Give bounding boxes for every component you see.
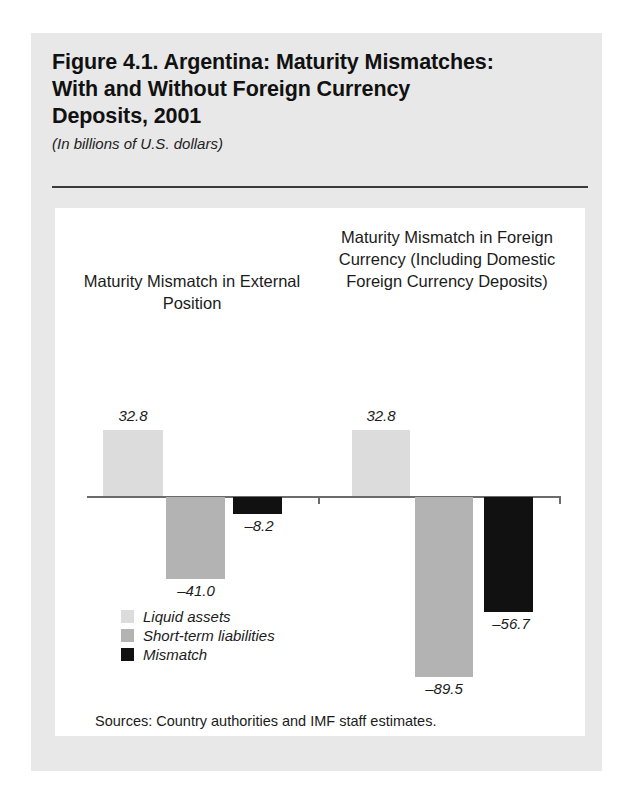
bar-left-short-term-liabilities <box>166 497 225 579</box>
legend-label-short-term-liabilities: Short-term liabilities <box>143 627 275 644</box>
bar-label-left-short-term-liabilities: –41.0 <box>161 582 231 599</box>
bar-label-right-short-term-liabilities: –89.5 <box>409 680 479 697</box>
axis-tick-end <box>559 496 561 504</box>
figure-title-line-3: Deposits, 2001 <box>52 103 588 130</box>
legend-label-liquid-assets: Liquid assets <box>143 608 231 625</box>
bar-label-left-liquid-assets: 32.8 <box>103 407 163 424</box>
figure-title-block: Figure 4.1. Argentina: Maturity Mismatch… <box>52 49 588 154</box>
bar-right-short-term-liabilities <box>415 497 473 677</box>
legend-swatch-short-term-liabilities <box>121 629 134 642</box>
figure-title-line-1: Figure 4.1. Argentina: Maturity Mismatch… <box>52 49 588 76</box>
legend-label-mismatch: Mismatch <box>143 646 207 663</box>
axis-tick-panel-separator <box>318 496 320 504</box>
bar-left-liquid-assets <box>103 430 163 496</box>
bar-right-mismatch <box>484 497 533 612</box>
figure-subtitle: (In billions of U.S. dollars) <box>52 134 588 154</box>
bar-label-left-mismatch: –8.2 <box>229 517 289 534</box>
chart-legend: Liquid assets Short-term liabilities Mis… <box>121 607 275 664</box>
legend-swatch-liquid-assets <box>121 610 134 623</box>
bar-right-liquid-assets <box>352 430 410 496</box>
figure-title-line-2: With and Without Foreign Currency <box>52 76 588 103</box>
bar-left-mismatch <box>233 497 282 514</box>
plot-card: Maturity Mismatch in External Position M… <box>55 208 585 736</box>
bar-label-right-liquid-assets: 32.8 <box>352 407 410 424</box>
legend-item-mismatch: Mismatch <box>121 645 275 664</box>
legend-item-short-term-liabilities: Short-term liabilities <box>121 626 275 645</box>
bar-label-right-mismatch: –56.7 <box>478 615 544 632</box>
legend-item-liquid-assets: Liquid assets <box>121 607 275 626</box>
title-divider-rule <box>52 186 588 188</box>
legend-swatch-mismatch <box>121 648 134 661</box>
sources-note: Sources: Country authorities and IMF sta… <box>95 713 436 729</box>
figure-panel: Figure 4.1. Argentina: Maturity Mismatch… <box>31 33 602 771</box>
